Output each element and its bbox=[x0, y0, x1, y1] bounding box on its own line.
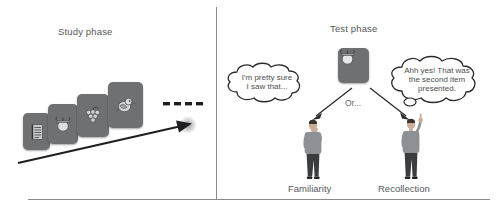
thought-bubble-familiarity: I'm pretty sure I saw that... bbox=[218, 62, 316, 106]
study-card-2 bbox=[48, 104, 78, 144]
continuation-dashes bbox=[163, 100, 205, 108]
outcome-label-familiarity: Familiarity bbox=[288, 183, 331, 194]
panel-divider bbox=[216, 7, 217, 199]
study-card-3 bbox=[77, 94, 109, 137]
outcome-label-recollection: Recollection bbox=[378, 183, 430, 194]
bird-icon bbox=[115, 95, 137, 115]
person-recollection bbox=[398, 112, 428, 180]
figure-canvas: Study phase bbox=[0, 0, 502, 210]
study-card-1 bbox=[23, 113, 50, 150]
grapes-icon bbox=[84, 106, 103, 126]
person-familiarity bbox=[298, 118, 328, 180]
thought-line-2: I saw that... bbox=[218, 82, 316, 92]
thought-bubble-recollection: Ahh yes! That was the second item presen… bbox=[382, 55, 492, 107]
bottom-rule bbox=[28, 199, 490, 200]
acorn-icon bbox=[338, 48, 357, 66]
test-phase-title: Test phase bbox=[330, 23, 377, 34]
notebook-icon bbox=[30, 123, 44, 140]
test-probe-card bbox=[338, 48, 369, 83]
study-card-4 bbox=[108, 82, 143, 128]
acorn-icon bbox=[54, 115, 73, 133]
thought-line-3: presented. bbox=[382, 84, 492, 94]
study-phase-title: Study phase bbox=[58, 26, 112, 37]
branch-or-label: Or... bbox=[345, 98, 361, 108]
